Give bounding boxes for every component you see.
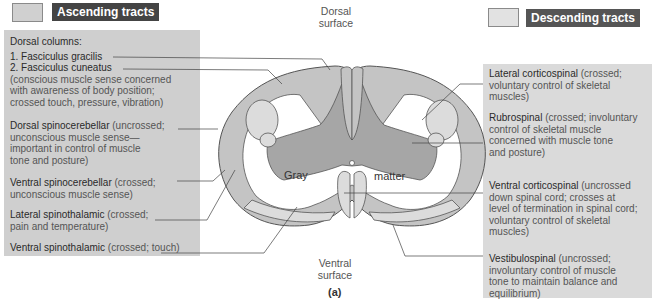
ventral-surface-label: Ventral surface	[305, 257, 365, 281]
dorsal-surface-label: Dorsal surface	[306, 5, 366, 29]
lateral-spinothalamic-label: Lateral spinothalamic (crossed; pain and…	[10, 209, 198, 232]
matter-label: matter	[374, 171, 405, 183]
fasciculus-cuneatus-label: 2. Fasciculus cuneatus	[10, 62, 198, 74]
rubrospinal-right	[428, 133, 444, 147]
ventral-spinothalamic-label: Ventral spinothalamic (crossed; touch)	[10, 242, 198, 254]
rubrospinal-label: Rubrospinal (crossed; involuntary contro…	[489, 112, 651, 158]
dorsal-spinocerebellar-label: Dorsal spinocerebellar (uncrossed; uncon…	[10, 120, 198, 166]
ventral-spinocerebellar-label: Ventral spinocerebellar (crossed; uncons…	[10, 177, 198, 200]
lateral-corticospinal-right	[426, 100, 458, 140]
rubrospinal-left	[260, 133, 276, 147]
dorsal-columns-block: Dorsal columns: 1. Fasciculus gracilis 2…	[10, 36, 198, 108]
central-canal	[350, 161, 355, 166]
fasciculus-gracilis-label: 1. Fasciculus gracilis	[10, 51, 198, 63]
lateral-corticospinal-left	[246, 100, 278, 140]
figure-caption: (a)	[328, 286, 341, 298]
ventral-corticospinal-label: Ventral corticospinal (uncrossed down sp…	[489, 180, 651, 238]
vestibulospinal-label: Vestibulospinal (uncrossed; involuntary …	[489, 253, 651, 299]
lateral-corticospinal-label: Lateral corticospinal (crossed; voluntar…	[489, 68, 651, 103]
gray-label: Gray	[284, 170, 308, 182]
